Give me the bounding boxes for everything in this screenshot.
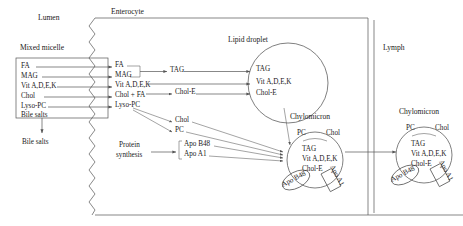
micelle-item-bile-salts: Bile salts [21,112,48,120]
chylomicron-cell-chol: Chol [326,130,340,138]
apo-a1-source: Apo A1 [184,151,207,159]
chylomicron-lymph-tag: TAG [411,141,425,149]
intermediate-pc: PC [175,127,184,135]
uptake-vit: Vit A,D,E,K [115,82,151,90]
droplet-chol-e: Chol-E [256,90,277,98]
apo-b48-source: Apo B48 [184,141,210,149]
diagram-canvas [0,0,463,226]
lysopc-branches [133,108,172,132]
droplet-tag: TAG [256,66,270,74]
label-protein-synthesis-1: Protein [119,142,140,150]
micelle-item-chol: Chol [21,93,35,101]
apob48-to-chylomicron [214,146,283,158]
droplet-vit: Vit A,D,E,K [256,79,292,87]
micelle-item-vit: Vit A,D,E,K [21,83,57,91]
apo-bracket [179,141,182,159]
intermediate-chol-e: Chol-E [175,89,196,97]
label-lymph: Lymph [383,44,405,52]
label-lipid-droplet: Lipid droplet [228,36,268,44]
label-mixed-micelle: Mixed micelle [20,44,64,52]
chylomicron-lymph-vit: Vit A,D,E,K [411,151,447,159]
label-bile-salts-out: Bile salts [22,139,49,147]
fa-mag-to-tag [127,66,167,77]
label-chylomicron-cell: Chylomicron [290,113,330,121]
label-chylomicron-lymph: Chylomicron [399,108,439,116]
lipid-absorption-diagram: Lumen Enterocyte Lymph Mixed micelle FA … [0,0,463,226]
chylomicron-cell-vit: Vit A,D,E,K [302,156,338,164]
uptake-chol-fa: Chol + FA [115,92,145,100]
intermediate-tag: TAG [170,67,184,75]
brush-border-membrane [89,18,95,215]
chylomicron-lymph-chol: Chol [435,125,449,133]
chylomicron-cell-pc: PC [297,130,306,138]
intermediate-chol: Chol [175,117,189,125]
uptake-fa: FA [115,62,124,70]
label-enterocyte: Enterocyte [111,8,144,16]
apoa1-to-chylomicron [209,156,283,161]
uptake-mag: MAG [115,72,132,80]
chylomicron-lymph-pc: PC [406,125,415,133]
micelle-item-mag: MAG [21,73,38,81]
micelle-item-fa: FA [21,63,30,71]
uptake-lysopc: Lyso-PC [115,102,140,110]
label-lumen: Lumen [38,14,60,22]
chylomicron-cell-tag: TAG [302,146,316,154]
enterocyte-outline [95,18,463,215]
label-protein-synthesis-2: synthesis [116,152,142,160]
micelle-item-lysopc: Lyso-PC [21,103,46,111]
